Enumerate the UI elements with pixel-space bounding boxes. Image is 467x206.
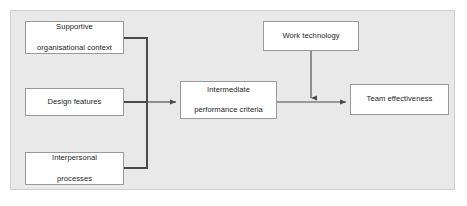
node-label-line2: organisational context <box>34 43 115 53</box>
node-label-line2: performance criteria <box>191 105 266 115</box>
node-label: Intermediateperformance criteria <box>188 85 269 116</box>
node-interpersonal-processes[interactable]: Interpersonalprocesses <box>25 152 124 185</box>
node-label: Design features <box>45 97 105 107</box>
node-intermediate-performance-criteria[interactable]: Intermediateperformance criteria <box>180 81 277 119</box>
node-label-line2: processes <box>49 174 100 184</box>
node-label: Supportiveorganisational context <box>31 22 118 53</box>
node-design-features[interactable]: Design features <box>25 88 124 116</box>
node-label-line1: Intermediate <box>191 85 266 95</box>
diagram-figure: Supportiveorganisational context Design … <box>0 0 467 206</box>
node-label: Team effectiveness <box>364 94 436 104</box>
node-label: Work technology <box>279 31 342 41</box>
node-supportive-organisational-context[interactable]: Supportiveorganisational context <box>25 21 124 54</box>
node-work-technology[interactable]: Work technology <box>263 21 359 51</box>
node-label-line1: Interpersonal <box>49 153 100 163</box>
node-label-line1: Supportive <box>34 22 115 32</box>
node-label: Interpersonalprocesses <box>46 153 103 184</box>
node-team-effectiveness[interactable]: Team effectiveness <box>350 84 449 115</box>
connector-bus-vertical <box>124 38 147 168</box>
